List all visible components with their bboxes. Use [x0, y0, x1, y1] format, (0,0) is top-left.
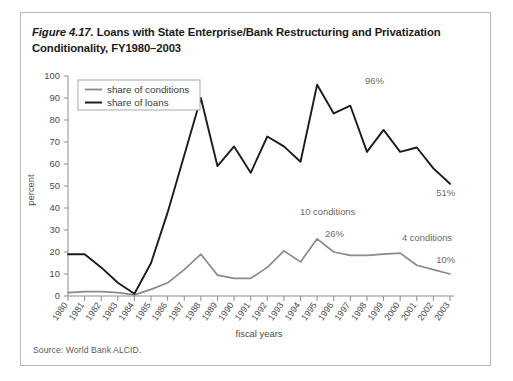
y-tick-label: 20 — [50, 246, 60, 257]
annotation-peak-loans: 96% — [365, 75, 384, 86]
y-axis: 0102030405060708090100 — [44, 70, 68, 301]
data-series-group — [68, 85, 450, 295]
y-tick-label: 60 — [50, 158, 60, 169]
x-tick-label: 2000 — [382, 300, 402, 322]
x-tick-label: 1980 — [50, 300, 70, 322]
x-tick-label: 1988 — [183, 300, 203, 322]
x-tick-label: 1990 — [216, 300, 236, 322]
annotation-conditions-count-10: 10 conditions — [300, 206, 356, 217]
y-tick-label: 80 — [50, 114, 60, 125]
x-tick-label: 1996 — [316, 300, 336, 322]
chart-legend: share of conditionsshare of loans — [78, 80, 200, 110]
x-tick-label: 1994 — [283, 300, 303, 322]
x-tick-label: 1992 — [249, 300, 269, 322]
x-tick-label: 2001 — [399, 300, 419, 322]
figure-container: Figure 4.17. Loans with State Enterprise… — [0, 0, 513, 381]
y-tick-label: 10 — [50, 268, 60, 279]
y-tick-label: 40 — [50, 202, 60, 213]
annotation-peak-conditions: 26% — [325, 228, 344, 239]
x-axis-title: fiscal years — [236, 328, 283, 339]
y-tick-label: 0 — [55, 290, 60, 301]
legend-label-2: share of loans — [107, 97, 169, 108]
y-tick-label: 90 — [50, 92, 60, 103]
x-tick-label: 1991 — [233, 300, 253, 322]
y-axis-title: percent — [25, 174, 36, 206]
y-tick-label: 30 — [50, 224, 60, 235]
x-tick-label: 1982 — [83, 300, 103, 322]
x-tick-label: 2003 — [432, 300, 452, 322]
chart-plot: 0102030405060708090100 19801981198219831… — [0, 0, 513, 381]
series-line-1 — [68, 239, 450, 295]
annotation-group: 96%51%10 conditions26%4 conditions10% — [300, 75, 455, 265]
source-note: Source: World Bank ALCID. — [33, 345, 141, 355]
x-tick-label: 1981 — [67, 300, 87, 322]
x-tick-label: 1998 — [349, 300, 369, 322]
x-tick-label: 1989 — [200, 300, 220, 322]
x-tick-label: 1995 — [299, 300, 319, 322]
x-tick-label: 1999 — [366, 300, 386, 322]
x-tick-label: 2002 — [416, 300, 436, 322]
x-tick-label: 1997 — [332, 300, 352, 322]
y-tick-label: 70 — [50, 136, 60, 147]
annotation-end-conditions: 10% — [436, 254, 455, 265]
series-line-2 — [68, 85, 450, 294]
x-tick-label: 1993 — [266, 300, 286, 322]
y-tick-label: 50 — [50, 180, 60, 191]
x-tick-label: 1983 — [100, 300, 120, 322]
x-axis: 1980198119821983198419851986198719881989… — [50, 296, 454, 322]
x-tick-label: 1985 — [133, 300, 153, 322]
annotation-end-loans: 51% — [436, 187, 455, 198]
y-tick-label: 100 — [44, 70, 60, 81]
x-tick-label: 1987 — [166, 300, 186, 322]
legend-label-1: share of conditions — [107, 84, 189, 95]
annotation-conditions-count-4: 4 conditions — [402, 232, 452, 243]
x-tick-label: 1986 — [150, 300, 170, 322]
x-tick-label: 1984 — [117, 300, 137, 322]
